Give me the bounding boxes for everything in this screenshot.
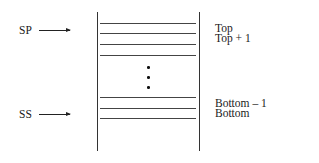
stack-left-wall — [97, 12, 98, 151]
stack-slot-line — [100, 97, 196, 98]
stack-slot-line — [100, 23, 196, 24]
stack-slot-line — [100, 118, 196, 119]
stack-slot-line — [100, 108, 196, 109]
stack-right-wall — [199, 12, 200, 151]
ellipsis-dot-icon — [147, 66, 150, 69]
ss-label: SS — [19, 109, 32, 120]
ellipsis-dot-icon — [147, 86, 150, 89]
ellipsis-dot-icon — [147, 76, 150, 79]
bottom-label: Bottom — [215, 108, 250, 119]
stack-slot-line — [100, 44, 196, 45]
ss-arrow-icon — [39, 114, 70, 115]
sp-arrow-icon — [39, 30, 70, 31]
top-plus-1-label: Top + 1 — [215, 33, 251, 44]
stack-slot-line — [100, 33, 196, 34]
stack-slot-line — [100, 55, 196, 56]
sp-label: SP — [19, 25, 32, 36]
